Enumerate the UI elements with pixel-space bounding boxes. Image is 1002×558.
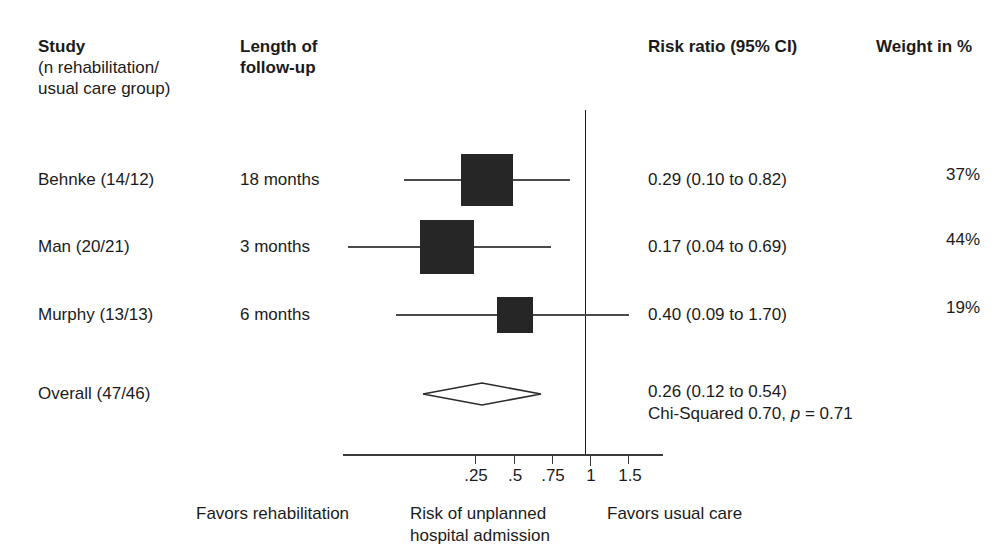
header-study: Study <box>38 36 85 57</box>
row-weight: 37% <box>946 164 980 186</box>
header-study-subtitle: (n rehabilitation/ usual care group) <box>38 57 170 99</box>
pooled-effect-diamond <box>418 379 546 409</box>
axis-tick-label: .75 <box>541 466 565 486</box>
forest-plot: Study (n rehabilitation/ usual care grou… <box>0 0 1002 558</box>
effect-marker-box <box>497 297 533 333</box>
axis-tick-label: .25 <box>464 466 488 486</box>
header-risk-ratio: Risk ratio (95% CI) <box>648 36 797 57</box>
row-follow-up: 3 months <box>240 236 310 258</box>
row-risk-ratio: 0.29 (0.10 to 0.82) <box>648 169 787 191</box>
heterogeneity-suffix: = 0.71 <box>800 404 852 423</box>
axis-tick-label: 1 <box>586 466 595 486</box>
footer-favors-rehabilitation: Favors rehabilitation <box>196 503 349 525</box>
header-follow-up: Length of follow-up <box>240 36 317 78</box>
row-weight: 44% <box>946 229 980 251</box>
overall-risk-ratio: 0.26 (0.12 to 0.54) <box>648 381 787 403</box>
row-study-label: Man (20/21) <box>38 236 130 258</box>
effect-marker-box <box>420 220 474 274</box>
axis-tick <box>628 455 629 464</box>
row-follow-up: 18 months <box>240 169 319 191</box>
axis-tick <box>514 455 515 464</box>
null-reference-line <box>585 110 586 456</box>
overall-study-label: Overall (47/46) <box>38 383 150 405</box>
axis-tick <box>475 455 476 464</box>
effect-marker-box <box>461 154 513 206</box>
heterogeneity-p-symbol: p <box>791 404 800 423</box>
axis-tick-label: 1.5 <box>618 466 642 486</box>
footer-favors-usual-care: Favors usual care <box>607 503 742 525</box>
axis-tick-null <box>590 455 591 466</box>
row-weight: 19% <box>946 297 980 319</box>
header-weight: Weight in % <box>876 36 972 57</box>
row-risk-ratio: 0.17 (0.04 to 0.69) <box>648 236 787 258</box>
x-axis-line <box>343 454 663 456</box>
heterogeneity-stats: Chi-Squared 0.70, p = 0.71 <box>648 403 853 425</box>
row-risk-ratio: 0.40 (0.09 to 1.70) <box>648 304 787 326</box>
axis-tick <box>552 455 553 464</box>
row-study-label: Murphy (13/13) <box>38 304 153 326</box>
row-follow-up: 6 months <box>240 304 310 326</box>
row-study-label: Behnke (14/12) <box>38 169 154 191</box>
footer-axis-title: Risk of unplanned hospital admission <box>410 503 550 547</box>
axis-tick-label: .5 <box>508 466 522 486</box>
heterogeneity-prefix: Chi-Squared 0.70, <box>648 404 791 423</box>
